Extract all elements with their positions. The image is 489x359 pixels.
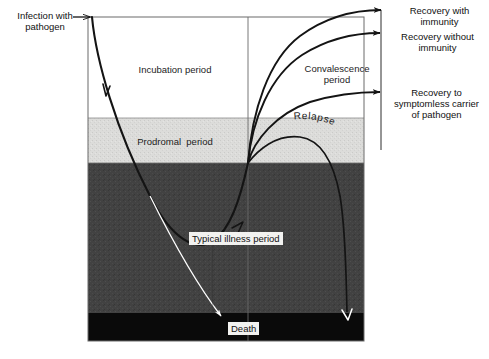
label-recovery-with-immunity: Recovery withimmunity bbox=[392, 5, 487, 27]
label-typical-illness-period: Typical illness period bbox=[189, 232, 283, 245]
disease-course-diagram: Infection withpathogen Incubation period… bbox=[0, 0, 489, 359]
label-relapse: Relapse bbox=[290, 112, 370, 146]
label-infection-with-pathogen: Infection withpathogen bbox=[4, 10, 86, 32]
diagram-canvas bbox=[0, 0, 489, 359]
label-death: Death bbox=[228, 322, 259, 335]
label-recovery-without-immunity: Recovery withoutimmunity bbox=[386, 31, 489, 53]
label-prodromal-period: Prodromal period bbox=[125, 136, 225, 147]
label-relapse-text: Relapse bbox=[293, 110, 337, 127]
band-death-fill bbox=[88, 313, 364, 341]
label-convalescence-period: Convalescenceperiod bbox=[295, 63, 379, 85]
label-incubation-period: Incubation period bbox=[120, 64, 230, 75]
label-recovery-to-symptomless-carrier: Recovery tosymptomless carrierof pathoge… bbox=[386, 87, 487, 121]
